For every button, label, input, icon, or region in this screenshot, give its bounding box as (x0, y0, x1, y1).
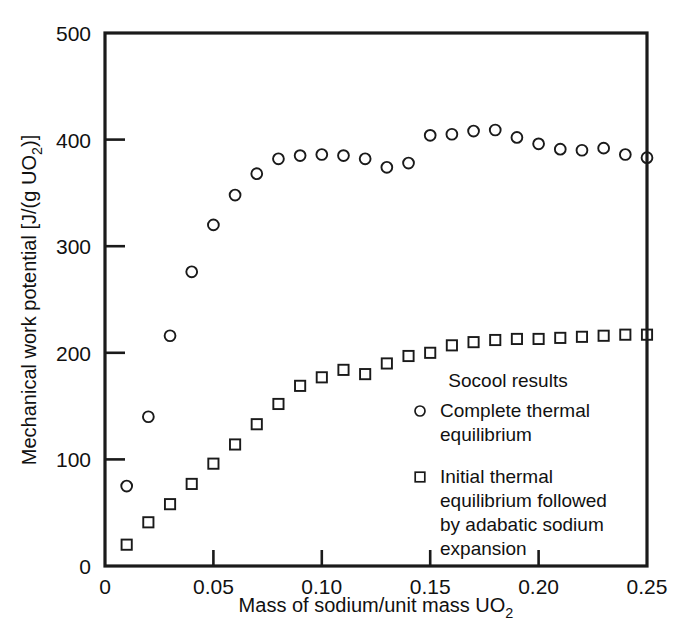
x-tick-label: 0.25 (627, 575, 668, 598)
legend-entry-label: expansion (440, 538, 527, 559)
data-point-square (490, 335, 500, 345)
data-point-square (512, 334, 522, 344)
y-axis-ticks (105, 140, 125, 460)
x-tick-label: 0.05 (193, 575, 234, 598)
data-point-square (599, 331, 609, 341)
data-point-circle (338, 150, 349, 161)
data-point-square (577, 332, 587, 342)
data-point-square (360, 369, 370, 379)
y-axis-tick-labels: 0100200300400500 (56, 22, 91, 578)
legend-entry-label: equilibrium (440, 424, 532, 445)
data-point-square (208, 459, 218, 469)
data-point-circle (620, 149, 631, 160)
data-point-circle (316, 149, 327, 160)
y-tick-label: 0 (79, 555, 91, 578)
legend-entry: Initial thermalequilibrium followedby ad… (415, 466, 607, 559)
scatter-plot-svg: 00.050.100.150.200.25 0100200300400500 M… (0, 0, 684, 631)
y-tick-label: 400 (56, 129, 91, 152)
data-point-circle (403, 158, 414, 169)
chart-legend: Socool results Complete thermalequilibri… (415, 370, 607, 559)
legend-entry: Complete thermalequilibrium (415, 400, 590, 445)
x-tick-label: 0.20 (518, 575, 559, 598)
data-point-circle (490, 125, 501, 136)
legend-entry-label: by adabatic sodium (440, 514, 604, 535)
legend-entries: Complete thermalequilibriumInitial therm… (415, 400, 607, 559)
svg-text:Mass of sodium/unit mass UO2: Mass of sodium/unit mass UO2 (239, 594, 514, 621)
data-point-circle (186, 266, 197, 277)
data-point-circle (555, 144, 566, 155)
data-point-square (382, 358, 392, 368)
data-point-square (317, 372, 327, 382)
chart-figure: 00.050.100.150.200.25 0100200300400500 M… (0, 0, 684, 631)
legend-marker-square (415, 472, 425, 482)
data-point-square (187, 479, 197, 489)
data-point-circle (230, 190, 241, 201)
data-point-square (122, 540, 132, 550)
data-point-square (534, 334, 544, 344)
legend-entry-label: equilibrium followed (440, 490, 607, 511)
series-complete-thermal-equilibrium (121, 125, 652, 492)
legend-entry-label: Complete thermal (440, 400, 590, 421)
data-point-square (555, 333, 565, 343)
y-tick-label: 200 (56, 342, 91, 365)
y-axis-title: Mechanical work potential [J/(g UO2)] (18, 135, 45, 465)
data-point-square (165, 499, 175, 509)
svg-text:Mechanical work potential [J/(: Mechanical work potential [J/(g UO2)] (18, 135, 45, 465)
data-point-circle (360, 153, 371, 164)
data-point-square (468, 337, 478, 347)
data-point-circle (533, 138, 544, 149)
data-point-square (230, 439, 240, 449)
data-point-circle (295, 150, 306, 161)
data-point-circle (598, 143, 609, 154)
legend-title: Socool results (448, 370, 567, 391)
x-tick-label: 0 (99, 575, 111, 598)
data-point-circle (165, 330, 176, 341)
y-tick-label: 500 (56, 22, 91, 45)
data-point-circle (577, 145, 588, 156)
y-tick-label: 300 (56, 235, 91, 258)
data-point-circle (121, 481, 132, 492)
data-point-circle (208, 219, 219, 230)
data-point-circle (143, 411, 154, 422)
data-point-square (447, 340, 457, 350)
data-point-square (403, 351, 413, 361)
data-point-circle (381, 162, 392, 173)
data-point-square (338, 365, 348, 375)
data-point-circle (446, 129, 457, 140)
data-point-square (273, 399, 283, 409)
data-point-circle (273, 153, 284, 164)
x-axis-title: Mass of sodium/unit mass UO2 (239, 594, 514, 621)
data-point-circle (512, 132, 523, 143)
legend-marker-circle (415, 406, 425, 416)
data-point-square (252, 419, 262, 429)
data-point-square (295, 381, 305, 391)
data-point-circle (468, 126, 479, 137)
data-point-circle (251, 168, 262, 179)
data-point-circle (425, 130, 436, 141)
legend-entry-label: Initial thermal (440, 466, 553, 487)
y-tick-label: 100 (56, 448, 91, 471)
data-point-square (143, 517, 153, 527)
data-point-square (620, 330, 630, 340)
data-point-square (425, 348, 435, 358)
